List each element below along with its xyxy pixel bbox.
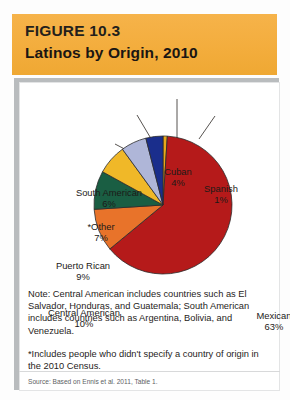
notes-block: Note: Central American includes countrie… bbox=[28, 288, 271, 372]
pie-label-spanish-name: Spanish bbox=[204, 183, 238, 194]
pie-label-puerto-rican-name: Puerto Rican bbox=[56, 260, 110, 271]
pie-label-south-american-name: South American bbox=[76, 187, 142, 198]
figure-title-banner: FIGURE 10.3 Latinos by Origin, 2010 bbox=[12, 14, 277, 75]
pie-label-other-name: *Other bbox=[87, 221, 114, 232]
pie-chart-svg bbox=[19, 82, 280, 280]
pie-label-south-american-value: 6% bbox=[67, 198, 151, 209]
note-text: Note: Central American includes countrie… bbox=[28, 288, 271, 337]
footnote-text: *Includes people who didn't specify a co… bbox=[28, 348, 271, 372]
pie-label-other-value: 7% bbox=[74, 232, 128, 243]
pie-label-puerto-rican: Puerto Rican 9% bbox=[45, 260, 121, 283]
pie-label-south-american: South American 6% bbox=[67, 187, 151, 210]
pie-label-other: *Other 7% bbox=[74, 221, 128, 244]
pie-label-cuban-name: Cuban bbox=[164, 166, 192, 177]
figure-number: FIGURE 10.3 bbox=[25, 21, 277, 40]
figure-root: FIGURE 10.3 Latinos by Origin, 2010 Cuba… bbox=[0, 0, 290, 400]
pie-chart: Cuban 4% Spanish 1% South American 6% *O… bbox=[19, 82, 280, 280]
page-title: Latinos by Origin, 2010 bbox=[25, 42, 277, 64]
source-text: Source: Based on Ennis et al. 2011, Tabl… bbox=[28, 377, 273, 386]
source-divider bbox=[19, 371, 280, 372]
pie-label-puerto-rican-value: 9% bbox=[45, 271, 121, 282]
leader-line-spanish bbox=[199, 116, 215, 139]
pie-label-spanish-value: 1% bbox=[195, 194, 247, 205]
pie-label-spanish: Spanish 1% bbox=[195, 183, 247, 206]
